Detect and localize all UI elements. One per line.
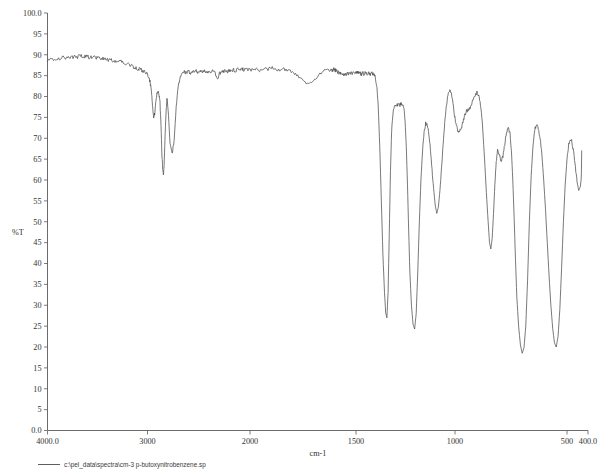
y-tick-label: 15 xyxy=(33,364,41,373)
x-axis-ticks: 4000.03000200015001000500400.0 xyxy=(36,431,597,447)
y-tick-label: 30 xyxy=(33,301,41,310)
y-axis-title: %T xyxy=(12,228,24,237)
x-tick-label: 1500 xyxy=(348,437,364,446)
x-tick-label: 2000 xyxy=(242,437,258,446)
x-tick-label: 500 xyxy=(561,437,573,446)
y-tick-label: 60 xyxy=(33,176,41,185)
y-tick-label: 70 xyxy=(33,134,41,143)
y-tick-label: 20 xyxy=(33,343,41,352)
spectrum-trace xyxy=(48,54,582,353)
x-tick-label: 400.0 xyxy=(579,437,597,446)
y-tick-label: 25 xyxy=(33,322,41,331)
y-tick-label: 50 xyxy=(33,218,41,227)
x-axis-title: cm-1 xyxy=(310,449,327,458)
y-axis-ticks: 100.095908580757065605550454035302520151… xyxy=(23,9,47,436)
y-tick-label: 85 xyxy=(33,71,41,80)
y-tick-label: 10 xyxy=(33,385,41,394)
x-tick-label: 4000.0 xyxy=(36,437,59,446)
ir-spectrum-window: 100.095908580757065605550454035302520151… xyxy=(0,0,608,476)
y-tick-label: 55 xyxy=(33,197,41,206)
y-tick-label: 80 xyxy=(33,92,41,101)
y-tick-label: 100.0 xyxy=(23,9,41,18)
y-tick-label: 40 xyxy=(33,259,41,268)
y-tick-label: 0.0 xyxy=(31,426,41,435)
y-tick-label: 90 xyxy=(33,51,41,60)
y-tick-label: 95 xyxy=(33,30,41,39)
x-tick-label: 3000 xyxy=(139,437,155,446)
y-tick-label: 35 xyxy=(33,280,41,289)
y-tick-label: 45 xyxy=(33,238,41,247)
x-tick-label: 1000 xyxy=(447,437,463,446)
y-tick-label: 65 xyxy=(33,155,41,164)
legend-entry-label: c:\pel_data\spectra\cm-3 p-butoxynitrobe… xyxy=(64,461,206,469)
spectrum-plot[interactable]: 100.095908580757065605550454035302520151… xyxy=(0,0,608,476)
y-tick-label: 75 xyxy=(33,113,41,122)
y-tick-label: 5 xyxy=(37,405,41,414)
